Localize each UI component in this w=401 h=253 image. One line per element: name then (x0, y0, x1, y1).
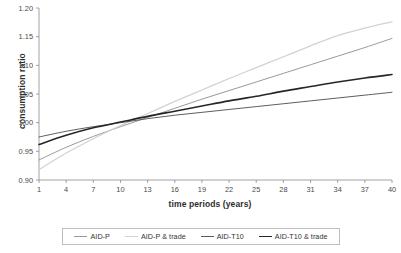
legend-swatch-line-icon (259, 236, 272, 237)
x-tick-label: 31 (306, 185, 314, 194)
x-tick-label: 22 (225, 185, 233, 194)
legend-label: AID-P & trade (141, 232, 186, 241)
legend-item-1[interactable]: AID-P & trade (125, 232, 186, 241)
legend-swatch-line-icon (125, 236, 138, 237)
legend-label: AID-P (90, 232, 109, 241)
x-tick-label: 1 (37, 185, 41, 194)
y-tick-label: 1.00 (19, 118, 33, 127)
series-line-2 (39, 92, 392, 137)
y-axis-ticks: 0.900.951.001.051.101.151.20 (19, 4, 39, 185)
series-line-3 (39, 75, 392, 145)
y-tick-label: 1.20 (19, 4, 33, 13)
series-line-1 (39, 22, 392, 170)
x-tick-label: 13 (143, 185, 151, 194)
series-lines (39, 22, 392, 170)
x-tick-label: 19 (198, 185, 206, 194)
x-axis-ticks: 1471013161922252831343740 (37, 180, 396, 194)
x-tick-label: 4 (64, 185, 68, 194)
line-chart-plot: 0.900.951.001.051.101.151.20 14710131619… (0, 0, 401, 253)
legend-item-0[interactable]: AID-P (74, 232, 109, 241)
x-tick-label: 25 (252, 185, 260, 194)
chart-figure: consumption ratio 0.900.951.001.051.101.… (0, 0, 401, 253)
chart-legend: AID-PAID-P & tradeAID-T10AID-T10 & trade (62, 228, 340, 245)
y-tick-label: 1.15 (19, 32, 33, 41)
y-tick-label: 1.05 (19, 90, 33, 99)
legend-label: AID-T10 (217, 232, 244, 241)
series-line-0 (39, 38, 392, 160)
y-tick-label: 0.95 (19, 147, 33, 156)
legend-item-3[interactable]: AID-T10 & trade (259, 232, 328, 241)
x-tick-label: 16 (171, 185, 179, 194)
x-tick-label: 10 (116, 185, 124, 194)
x-tick-label: 28 (279, 185, 287, 194)
legend-label: AID-T10 & trade (275, 232, 328, 241)
x-tick-label: 40 (388, 185, 396, 194)
legend-swatch-line-icon (201, 236, 214, 237)
x-tick-label: 34 (334, 185, 342, 194)
y-tick-label: 0.90 (19, 176, 33, 185)
x-axis-title: time periods (years) (28, 199, 392, 209)
legend-swatch-line-icon (74, 236, 87, 237)
legend-item-2[interactable]: AID-T10 (201, 232, 244, 241)
y-tick-label: 1.10 (19, 61, 33, 70)
x-tick-label: 7 (91, 185, 95, 194)
x-tick-label: 37 (361, 185, 369, 194)
